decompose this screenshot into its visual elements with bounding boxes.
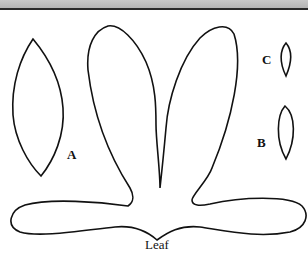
shape-a (13, 39, 64, 176)
shape-c (281, 43, 290, 76)
shape-b (278, 106, 293, 159)
shapes-canvas (0, 0, 308, 254)
label-c: C (262, 52, 271, 68)
pattern-diagram: A C B Leaf (0, 0, 308, 254)
label-a: A (67, 147, 76, 163)
label-leaf: Leaf (145, 237, 169, 253)
label-b: B (257, 135, 266, 151)
